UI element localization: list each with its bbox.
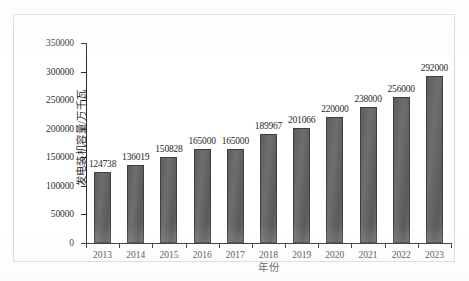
bar bbox=[293, 128, 310, 243]
bar-value-label: 136019 bbox=[122, 152, 149, 162]
bar-value-label: 124738 bbox=[89, 159, 116, 169]
plot-area: 0500001000001500002000002500003000003500… bbox=[86, 43, 451, 243]
x-axis-tick bbox=[252, 243, 253, 248]
bar-value-label: 238000 bbox=[354, 94, 381, 104]
y-axis-tick: 150000 bbox=[81, 157, 86, 158]
x-axis-title: 年份 bbox=[86, 259, 451, 274]
y-axis-tick: 250000 bbox=[81, 100, 86, 101]
figure-frame: 发电装机容量/万千瓦 05000010000015000020000025000… bbox=[13, 14, 455, 262]
x-axis-tick bbox=[385, 243, 386, 248]
x-axis-tick bbox=[119, 243, 120, 248]
bar-value-label: 189967 bbox=[255, 121, 282, 131]
y-axis-tick: 200000 bbox=[81, 129, 86, 130]
y-axis-tick-label: 150000 bbox=[46, 152, 74, 162]
x-axis-tick bbox=[418, 243, 419, 248]
bar bbox=[227, 149, 244, 243]
y-axis-tick: 350000 bbox=[81, 43, 86, 44]
y-axis-line bbox=[86, 43, 87, 243]
y-axis-tick-label: 250000 bbox=[46, 95, 74, 105]
x-axis-line bbox=[86, 243, 451, 244]
bar bbox=[194, 149, 211, 243]
y-axis-tick-label: 0 bbox=[69, 238, 74, 248]
bar-value-label: 256000 bbox=[388, 84, 415, 94]
bar-value-label: 292000 bbox=[421, 63, 448, 73]
y-axis-tick: 50000 bbox=[81, 214, 86, 215]
x-axis-tick bbox=[451, 243, 452, 248]
y-axis-tick-label: 200000 bbox=[46, 124, 74, 134]
bar bbox=[160, 157, 177, 243]
x-axis-tick bbox=[318, 243, 319, 248]
y-axis-tick-label: 350000 bbox=[46, 38, 74, 48]
y-axis-tick-label: 300000 bbox=[46, 67, 74, 77]
y-axis-tick-label: 50000 bbox=[51, 209, 74, 219]
bar bbox=[260, 134, 277, 243]
bar bbox=[326, 117, 343, 243]
x-axis-tick bbox=[152, 243, 153, 248]
bar-value-label: 150828 bbox=[155, 144, 182, 154]
bar bbox=[94, 172, 111, 243]
x-axis-tick bbox=[219, 243, 220, 248]
bar bbox=[360, 107, 377, 243]
x-axis-tick bbox=[351, 243, 352, 248]
y-axis-tick: 100000 bbox=[81, 186, 86, 187]
x-axis-tick bbox=[186, 243, 187, 248]
x-axis-tick bbox=[285, 243, 286, 248]
y-axis-tick-label: 100000 bbox=[46, 181, 74, 191]
bar bbox=[426, 76, 443, 243]
bar bbox=[127, 165, 144, 243]
bar-value-label: 165000 bbox=[188, 136, 215, 146]
bar bbox=[393, 97, 410, 243]
bar-value-label: 201066 bbox=[288, 115, 315, 125]
y-axis-tick: 300000 bbox=[81, 72, 86, 73]
bar-value-label: 220000 bbox=[321, 104, 348, 114]
x-axis-tick bbox=[86, 243, 87, 248]
bar-value-label: 165000 bbox=[222, 136, 249, 146]
